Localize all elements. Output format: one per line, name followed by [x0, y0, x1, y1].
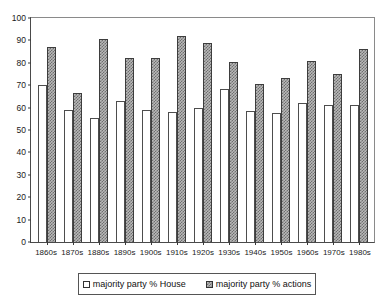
x-axis-tick-mark: [255, 242, 256, 245]
bar-actions: [281, 78, 290, 242]
y-axis-tick-label: 30: [17, 171, 26, 180]
bar-house: [168, 112, 177, 242]
bar-house: [350, 105, 359, 242]
x-axis-tick-mark: [73, 242, 74, 245]
bar-group: [34, 18, 60, 242]
white-square-swatch-icon: [83, 281, 90, 288]
x-axis-tick-label: 1980s: [347, 249, 373, 257]
bar-house: [38, 85, 47, 242]
bar-group: [60, 18, 86, 242]
bar-house: [324, 105, 333, 242]
x-axis-tick-mark: [151, 242, 152, 245]
bar-house: [298, 103, 307, 242]
y-axis-tick-label: 50: [17, 126, 26, 135]
plot-area: 1009080706050403020100: [30, 17, 375, 243]
legend-label-actions: majority party % actions: [216, 280, 312, 289]
bar-house: [220, 89, 229, 242]
bar-group: [190, 18, 216, 242]
bar-group: [346, 18, 372, 242]
bar-groups: [31, 18, 374, 242]
bar-group: [242, 18, 268, 242]
bar-group: [268, 18, 294, 242]
y-axis-tick-label: 80: [17, 59, 26, 68]
bar-actions: [203, 43, 212, 242]
bar-group: [112, 18, 138, 242]
bar-house: [116, 101, 125, 242]
bar-actions: [177, 36, 186, 242]
x-axis-tick-label: 1870s: [59, 249, 85, 257]
x-axis-tick-label: 1940s: [242, 249, 268, 257]
x-axis-tick-label: 1890s: [111, 249, 137, 257]
bar-group: [320, 18, 346, 242]
x-axis-labels: 1860s1870s1880s1890s1900s1910s1920s1930s…: [30, 249, 375, 257]
x-axis-tick-label: 1960s: [295, 249, 321, 257]
x-axis-tick-mark: [99, 242, 100, 245]
bar-group: [138, 18, 164, 242]
x-axis-tick-label: 1930s: [216, 249, 242, 257]
x-axis-tick-mark: [125, 242, 126, 245]
y-axis-tick-label: 70: [17, 81, 26, 90]
x-axis-tick-label: 1900s: [138, 249, 164, 257]
chart-legend: majority party % House majority party % …: [78, 273, 316, 295]
x-axis-tick-label: 1970s: [321, 249, 347, 257]
bar-house: [64, 110, 73, 242]
y-axis-tick-label: 40: [17, 148, 26, 157]
x-axis-tick-mark: [203, 242, 204, 245]
x-axis-tick-label: 1880s: [85, 249, 111, 257]
x-axis-tick-mark: [333, 242, 334, 245]
x-axis-tick-mark: [177, 242, 178, 245]
y-axis-tick-label: 60: [17, 103, 26, 112]
bar-house: [194, 108, 203, 242]
bar-actions: [229, 62, 238, 242]
x-axis-tick-label: 1920s: [190, 249, 216, 257]
bar-house: [142, 110, 151, 242]
bar-house: [272, 113, 281, 242]
hatched-square-swatch-icon: [206, 281, 213, 288]
bar-group: [216, 18, 242, 242]
legend-label-house: majority party % House: [93, 280, 186, 289]
bar-group: [164, 18, 190, 242]
bar-chart: 1009080706050403020100 1860s1870s1880s18…: [0, 0, 383, 305]
x-axis-tick-label: 1860s: [33, 249, 59, 257]
bar-group: [86, 18, 112, 242]
bar-actions: [359, 49, 368, 242]
bar-actions: [151, 58, 160, 242]
y-axis-tick-label: 20: [17, 193, 26, 202]
legend-item-house: majority party % House: [83, 280, 186, 289]
bar-group: [294, 18, 320, 242]
x-axis-tick-mark: [307, 242, 308, 245]
bar-actions: [307, 61, 316, 242]
bar-actions: [99, 39, 108, 242]
x-axis-tick-mark: [359, 242, 360, 245]
bar-actions: [333, 74, 342, 242]
bar-actions: [255, 84, 264, 242]
bar-house: [246, 111, 255, 242]
y-axis-tick-label: 90: [17, 36, 26, 45]
x-axis-tick-label: 1910s: [164, 249, 190, 257]
y-axis-tick-label: 100: [12, 14, 26, 23]
x-axis-tick-label: 1950s: [268, 249, 294, 257]
y-axis-tick-label: 10: [17, 215, 26, 224]
bar-actions: [125, 58, 134, 242]
bar-house: [90, 118, 99, 242]
x-axis-tick-mark: [47, 242, 48, 245]
bar-actions: [73, 93, 82, 242]
legend-item-actions: majority party % actions: [206, 280, 312, 289]
y-axis-tick-label: 0: [21, 238, 26, 247]
x-axis-tick-mark: [281, 242, 282, 245]
x-axis-tick-mark: [229, 242, 230, 245]
bar-actions: [47, 47, 56, 242]
